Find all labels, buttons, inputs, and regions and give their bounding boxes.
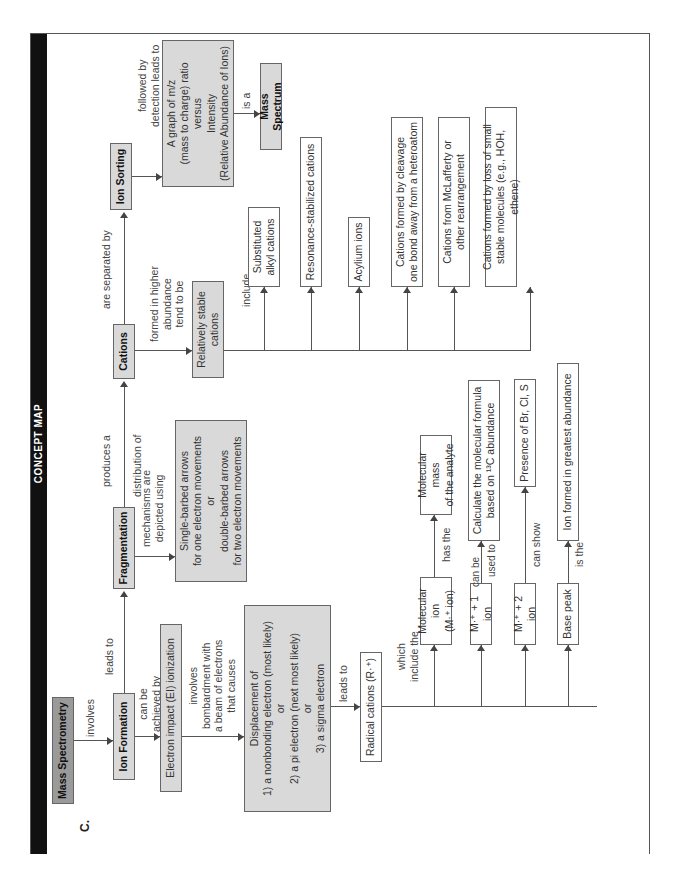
connector xyxy=(568,706,569,707)
connector xyxy=(434,515,435,577)
connector xyxy=(568,645,569,707)
node-radical-cations[interactable]: Radical cations (R·⁺) xyxy=(360,652,382,762)
connector xyxy=(124,383,125,507)
node-presence[interactable]: Presence of Br, Cl, S xyxy=(514,379,536,487)
node-ei-ionization[interactable]: Electron impact (EI) ionization xyxy=(160,624,182,792)
link-leads-to-radical: leads to xyxy=(337,665,350,702)
cation-type-2[interactable]: Resonance-stabilized cations xyxy=(300,137,322,287)
node-molecular-mass[interactable]: Molecular massof the analyte xyxy=(420,435,452,515)
arrow-right-icon xyxy=(477,541,485,547)
connector xyxy=(525,645,526,707)
connector xyxy=(530,287,531,351)
node-m-plus-2[interactable]: M·⁺ + 2 ion xyxy=(514,583,536,645)
node-relatively-stable[interactable]: Relatively stablecations xyxy=(192,281,224,378)
link-followed-by: followed bydetection leads to xyxy=(136,45,161,127)
node-fragmentation[interactable]: Fragmentation xyxy=(113,507,135,589)
arrow-right-icon xyxy=(120,212,128,218)
node-cations[interactable]: Cations xyxy=(113,324,135,379)
connector xyxy=(525,487,526,583)
section-letter: C. xyxy=(78,820,92,832)
connector xyxy=(135,350,192,351)
connector xyxy=(182,736,244,737)
arrow-right-icon xyxy=(120,381,128,387)
connector xyxy=(359,287,360,351)
arrow-right-icon xyxy=(521,487,529,493)
connector xyxy=(407,287,408,351)
node-ion-greatest[interactable]: Ion formed in greatest abundance xyxy=(557,363,579,541)
arrow-right-icon xyxy=(430,645,438,651)
node-m-plus-1[interactable]: M·⁺ + 1 ion xyxy=(470,583,492,645)
arrow-right-icon xyxy=(564,541,572,547)
arrow-right-icon xyxy=(430,515,438,521)
link-can-be-used-to-2: used to xyxy=(486,544,498,577)
arrow-right-icon xyxy=(450,287,458,293)
connector xyxy=(264,287,265,351)
link-is-the: is the xyxy=(573,542,586,567)
cation-type-6[interactable]: Cations formed by loss of smallstable mo… xyxy=(485,107,517,287)
arrow-right-icon xyxy=(120,591,128,597)
concept-map-page: CONCEPT MAP C. Mass Spectrometry involve… xyxy=(0,0,681,887)
connector xyxy=(124,593,125,693)
connector xyxy=(124,214,125,324)
connector xyxy=(454,287,455,351)
connector xyxy=(224,350,530,351)
node-molecular-ion[interactable]: Molecular ion(M·⁺ ion) xyxy=(420,577,452,645)
link-leads-to: leads to xyxy=(103,638,116,675)
cation-type-3[interactable]: Acylium ions xyxy=(348,217,370,287)
node-mass-spectrum[interactable]: Mass Spectrum xyxy=(260,63,282,150)
cation-type-1[interactable]: Substitutedalkyl cations xyxy=(248,207,280,287)
link-can-show: can show xyxy=(530,523,543,567)
link-formed-in-higher: formed in higherabundancetend to be xyxy=(148,266,186,342)
node-displacement[interactable]: Displacement of1) a nonbonding electron … xyxy=(244,605,331,812)
link-can-be-achieved-by: can beachieved by xyxy=(137,676,162,732)
node-graph-description[interactable]: A graph of m/z(mass to charge) ratiovers… xyxy=(162,40,234,187)
arrow-right-icon xyxy=(521,645,529,651)
arrow-right-icon xyxy=(260,287,268,293)
node-base-peak[interactable]: Base peak xyxy=(557,583,579,645)
link-can-be-used-to: can be xyxy=(470,557,482,587)
node-arrows-description[interactable]: Single-barbed arrowsfor one electron mov… xyxy=(175,420,247,582)
node-mass-spectrometry[interactable]: Mass Spectrometry xyxy=(52,697,74,804)
arrow-right-icon xyxy=(403,287,411,293)
link-has-the: has the xyxy=(440,528,453,562)
node-ion-sorting[interactable]: Ion Sorting xyxy=(110,143,132,210)
connector xyxy=(311,287,312,351)
arrow-right-icon xyxy=(564,645,572,651)
cation-type-4[interactable]: Cations formed by cleavageone bond away … xyxy=(391,117,423,287)
link-is-a: is a xyxy=(240,93,253,109)
connector xyxy=(568,541,569,583)
link-involves-bombardment: involvesbombardment witha beam of electr… xyxy=(187,640,237,732)
link-are-separated-by: are separated by xyxy=(100,230,113,309)
arrow-right-icon xyxy=(526,287,534,293)
node-ion-formation[interactable]: Ion Formation xyxy=(113,693,135,780)
cation-type-5[interactable]: Cations from McLafferty orother rearrang… xyxy=(438,117,470,287)
connector xyxy=(434,645,435,707)
arrow-right-icon xyxy=(477,645,485,651)
node-calc-formula[interactable]: Calculate the molecular formulabased on … xyxy=(468,380,500,541)
connector xyxy=(382,706,597,707)
arrow-right-icon xyxy=(355,287,363,293)
arrow-right-icon xyxy=(307,287,315,293)
link-mechanisms: mechanisms aredepicted using xyxy=(140,470,165,547)
link-involves: involves xyxy=(84,699,97,737)
link-produces-a: produces a xyxy=(100,435,113,487)
connector xyxy=(481,645,482,707)
